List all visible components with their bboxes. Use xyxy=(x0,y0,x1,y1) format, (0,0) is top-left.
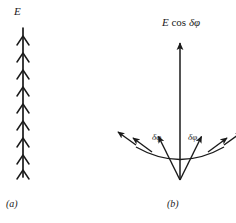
resultant-amplitude-symbol: E xyxy=(162,16,169,28)
panel-a-field-label: E xyxy=(14,6,21,17)
angle-label-left: δφ xyxy=(152,133,161,142)
panel-a-caption: (a) xyxy=(6,199,18,209)
angle-label-right: δφ xyxy=(188,133,197,142)
figure-diagram xyxy=(0,0,236,223)
figure-root: E E cos δφ δφ δφ (a) (b) xyxy=(0,0,236,223)
panel-a-field-line xyxy=(17,28,29,179)
panel-b-caption: (b) xyxy=(167,199,179,209)
resultant-angle-symbol: δφ xyxy=(189,16,200,28)
panel-b-resultant-label: E cos δφ xyxy=(162,17,200,28)
resultant-cos-operator: cos xyxy=(171,16,186,28)
panel-b-phasor-fan xyxy=(118,43,236,180)
